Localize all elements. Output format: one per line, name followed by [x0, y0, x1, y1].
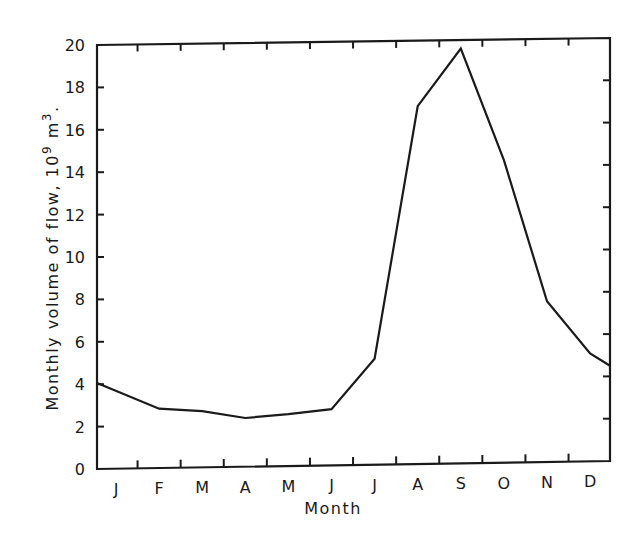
- x-tick-label: D: [584, 472, 596, 491]
- y-tick-label: 16: [65, 121, 85, 140]
- y-tick-label: 4: [75, 375, 85, 394]
- x-tick-label: A: [240, 478, 251, 497]
- x-tick-label: J: [371, 476, 377, 495]
- data-series: [97, 49, 610, 419]
- flow-volume-line: [97, 49, 610, 419]
- x-tick-label: J: [328, 476, 334, 495]
- y-tick-label: 2: [75, 418, 85, 437]
- y-tick-label: 8: [75, 290, 85, 309]
- x-tick-label: F: [154, 479, 163, 498]
- x-tick-label: S: [456, 474, 466, 493]
- y-tick-label: 0: [75, 460, 85, 479]
- x-tick-label: A: [412, 475, 423, 494]
- y-tick-label: 14: [65, 163, 85, 182]
- x-tick-label: M: [281, 477, 295, 496]
- x-tick-label: O: [498, 474, 511, 493]
- y-axis-ticks: 02468101214161820: [65, 36, 610, 479]
- x-tick-label: M: [195, 478, 209, 497]
- y-tick-label: 10: [65, 248, 85, 267]
- x-tick-label: J: [113, 480, 119, 499]
- y-tick-label: 6: [75, 333, 85, 352]
- line-chart: 02468101214161820 JFMAMJJASOND Month Mon…: [0, 0, 643, 537]
- x-axis-title: Month: [304, 499, 362, 518]
- y-tick-label: 12: [65, 206, 85, 225]
- x-axis-ticks: JFMAMJJASOND: [113, 39, 597, 499]
- x-tick-label: N: [541, 473, 553, 492]
- y-axis-title: Monthly volume of flow, 109 m3.: [40, 105, 62, 410]
- y-tick-label: 18: [65, 78, 85, 97]
- y-tick-label: 20: [65, 36, 85, 55]
